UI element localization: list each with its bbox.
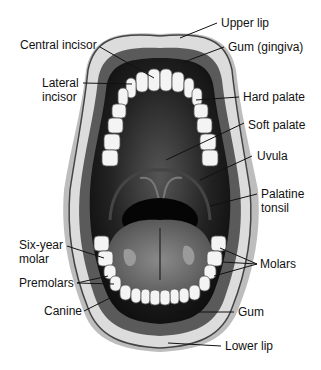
label-hard-palate: Hard palate — [243, 90, 305, 104]
label-canine: Canine — [44, 304, 82, 318]
label-uvula: Uvula — [257, 149, 288, 163]
label-upper-lip: Upper lip — [221, 16, 269, 30]
label-lateral-incisor-line2: incisor — [42, 90, 77, 104]
label-six-year-molar-line2: molar — [19, 252, 49, 266]
mouth-anatomy-diagram: Upper lip Gum (gingiva) Central incisor … — [0, 0, 321, 370]
label-palatine-tonsil-line1: Palatine — [261, 187, 304, 201]
label-gum: Gum — [238, 305, 264, 319]
label-molars: Molars — [260, 257, 296, 271]
label-lower-lip: Lower lip — [225, 339, 273, 353]
label-soft-palate: Soft palate — [248, 118, 305, 132]
label-gum-gingiva: Gum (gingiva) — [228, 40, 303, 54]
label-central-incisor: Central incisor — [20, 38, 97, 52]
label-palatine-tonsil-line2: tonsil — [261, 201, 289, 215]
label-six-year-molar-line1: Six-year — [19, 238, 63, 252]
label-premolars: Premolars — [19, 276, 74, 290]
label-lateral-incisor-line1: Lateral — [42, 76, 79, 90]
